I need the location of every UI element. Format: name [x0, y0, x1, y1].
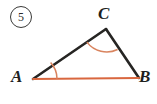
triangle-diagram	[0, 0, 157, 104]
side-CB	[106, 29, 139, 78]
vertex-label-a: A	[11, 68, 22, 85]
vertex-label-b: B	[139, 68, 150, 85]
vertex-label-c: C	[98, 5, 109, 22]
side-AC	[33, 29, 106, 79]
geometry-figure: 5 A B C	[0, 0, 157, 104]
angle-arc-C	[87, 42, 118, 52]
side-AB	[33, 78, 139, 79]
